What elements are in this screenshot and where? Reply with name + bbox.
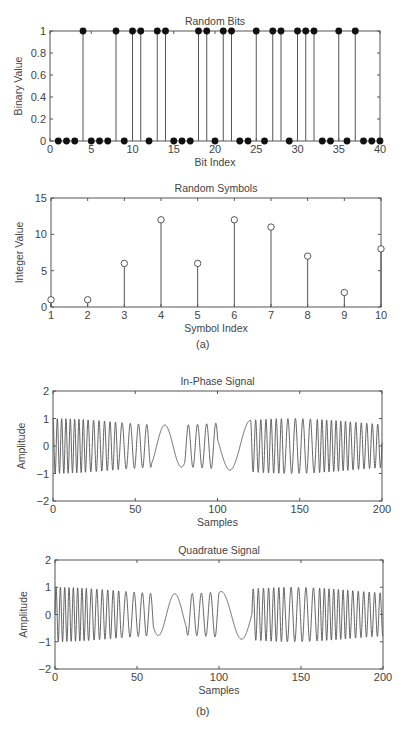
y-axis-label: Amplitude [15, 423, 27, 470]
data-point [311, 28, 318, 35]
data-point [352, 28, 359, 35]
x-tick-label: 10 [126, 143, 138, 155]
chart-title: Random Symbols [175, 182, 258, 194]
y-tick-label: 0.8 [31, 47, 46, 59]
x-tick-label: 9 [341, 309, 347, 321]
stem-chart-0: 051015202530354000.20.40.60.81Random Bit… [12, 15, 386, 168]
x-tick-label: 5 [195, 309, 201, 321]
data-point [158, 217, 164, 223]
x-tick-label: 100 [210, 671, 228, 683]
y-axis-label: Amplitude [17, 591, 29, 638]
x-tick-label: 35 [333, 143, 345, 155]
data-point [80, 28, 87, 35]
data-point [304, 253, 310, 259]
x-tick-label: 0 [47, 143, 53, 155]
data-point [170, 138, 177, 145]
data-point [335, 28, 342, 35]
data-point [203, 28, 210, 35]
data-point [286, 138, 293, 145]
data-point [228, 28, 235, 35]
x-tick-label: 200 [373, 503, 391, 515]
y-tick-label: 1 [40, 25, 46, 37]
data-point [344, 138, 351, 145]
data-point [187, 138, 194, 145]
y-tick-label: 0 [41, 301, 47, 313]
data-point [104, 138, 111, 145]
y-tick-label: −2 [36, 495, 49, 507]
caption-b: (b) [196, 705, 209, 717]
y-tick-label: 1 [43, 413, 49, 425]
x-tick-label: 200 [374, 671, 392, 683]
data-point [268, 224, 274, 230]
data-point [278, 28, 285, 35]
data-point [84, 297, 90, 303]
x-axis-label: Symbol Index [184, 322, 248, 334]
x-tick-label: 6 [231, 309, 237, 321]
data-point [220, 28, 227, 35]
data-point [154, 28, 161, 35]
data-point [236, 138, 243, 145]
plot-frame [51, 198, 381, 307]
data-point [195, 28, 202, 35]
data-point [121, 260, 127, 266]
data-point [253, 28, 260, 35]
signal-trace [55, 587, 383, 641]
plot-frame [50, 31, 380, 141]
figure-canvas: 051015202530354000.20.40.60.81Random Bit… [0, 0, 408, 732]
data-point [231, 217, 237, 223]
data-point [360, 138, 367, 145]
data-point [179, 138, 186, 145]
data-point [269, 28, 276, 35]
x-tick-label: 7 [268, 309, 274, 321]
y-tick-label: −1 [38, 636, 51, 648]
y-tick-label: 0 [45, 609, 51, 621]
data-point [294, 28, 301, 35]
data-point [48, 297, 54, 303]
data-point [377, 138, 384, 145]
stem-chart-1: 12345678910051015Random SymbolsSymbol In… [13, 182, 387, 334]
x-tick-label: 2 [85, 309, 91, 321]
data-point [319, 138, 326, 145]
y-axis-label: Binary Value [12, 56, 24, 115]
y-tick-label: 10 [35, 228, 47, 240]
chart-title: Random Bits [185, 15, 245, 27]
data-point [121, 138, 128, 145]
data-point [137, 28, 144, 35]
data-point [212, 138, 219, 145]
data-point [71, 138, 78, 145]
y-tick-label: 1 [45, 581, 51, 593]
x-tick-label: 1 [48, 309, 54, 321]
data-point [63, 138, 70, 145]
data-point [341, 289, 347, 295]
x-tick-label: 5 [88, 143, 94, 155]
x-tick-label: 150 [291, 503, 309, 515]
y-tick-label: 0 [43, 440, 49, 452]
x-tick-label: 8 [305, 309, 311, 321]
y-tick-label: 0 [40, 135, 46, 147]
data-point [302, 28, 309, 35]
x-axis-label: Bit Index [195, 156, 237, 168]
y-tick-label: 2 [45, 554, 51, 566]
plot-frame [55, 560, 383, 669]
chart-title: In-Phase Signal [180, 375, 254, 387]
x-axis-label: Samples [199, 684, 240, 696]
data-point [245, 138, 252, 145]
data-point [146, 138, 153, 145]
x-axis-label: Samples [197, 516, 238, 528]
caption-a: (a) [196, 338, 209, 350]
chart-title: Quadratue Signal [178, 544, 260, 556]
y-tick-label: 0.4 [31, 91, 46, 103]
data-point [96, 138, 103, 145]
y-tick-label: 5 [41, 265, 47, 277]
data-point [129, 28, 136, 35]
y-tick-label: 2 [43, 385, 49, 397]
x-tick-label: 40 [374, 143, 386, 155]
x-tick-label: 30 [291, 143, 303, 155]
y-axis-label: Integer Value [13, 222, 25, 284]
x-tick-label: 10 [375, 309, 387, 321]
x-tick-label: 15 [168, 143, 180, 155]
x-tick-label: 3 [121, 309, 127, 321]
x-tick-label: 50 [129, 503, 141, 515]
data-point [113, 28, 120, 35]
x-tick-label: 150 [292, 671, 310, 683]
